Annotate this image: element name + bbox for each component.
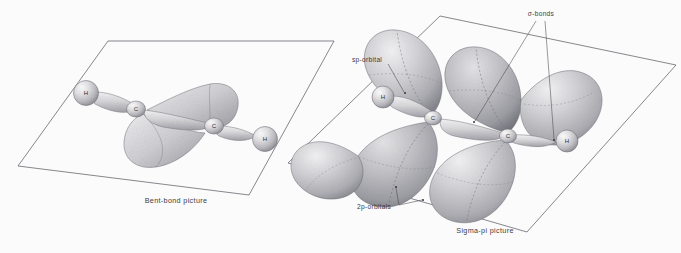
atom-label-c-right-sp: C [506, 133, 511, 139]
atom-label-h-right-sp: H [565, 138, 570, 144]
leader-dot-sigma-bonds-2 [553, 139, 555, 141]
panel-bent-bond: H C C H Bent-bond picture [18, 41, 334, 205]
bent-bond-molecule [74, 81, 278, 168]
panel-sigma-pi: H C C H sp-orbital σ-bonds 2p-orbitals S… [288, 10, 676, 235]
atom-label-h-left: H [84, 90, 89, 96]
annotation-label-2p-orbitals: 2p-orbitals [357, 203, 391, 211]
annotation-label-sigma-bonds: σ-bonds [528, 10, 555, 17]
atom-label-c-left-sp: C [431, 115, 436, 121]
molecular-orbital-figure: H C C H Bent-bond picture [0, 0, 681, 253]
pi-lobe-lower-left-far [291, 142, 363, 199]
pi-lobe-lower-left [351, 122, 438, 207]
pi-lobe-lower-right [430, 140, 516, 223]
leader-dot-sp-orbital [404, 92, 406, 94]
atom-label-c-left: C [134, 106, 139, 112]
caption-sigma-pi: Sigma-pi picture [456, 226, 514, 235]
caption-bent-bond: Bent-bond picture [145, 196, 208, 205]
leader-dot-sigma-bonds-1 [473, 121, 475, 123]
sigma-pi-molecule [291, 30, 602, 223]
annotation-label-sp-orbital: sp-orbital [352, 56, 382, 64]
pi-lobe-upper-right [445, 47, 521, 133]
atom-label-c-right: C [212, 123, 217, 129]
leader-dot-2p-orbitals-2 [422, 199, 424, 201]
atom-label-h-right: H [263, 136, 268, 142]
leader-dot-2p-orbitals-1 [395, 186, 397, 188]
atom-label-h-left-sp: H [381, 94, 386, 100]
